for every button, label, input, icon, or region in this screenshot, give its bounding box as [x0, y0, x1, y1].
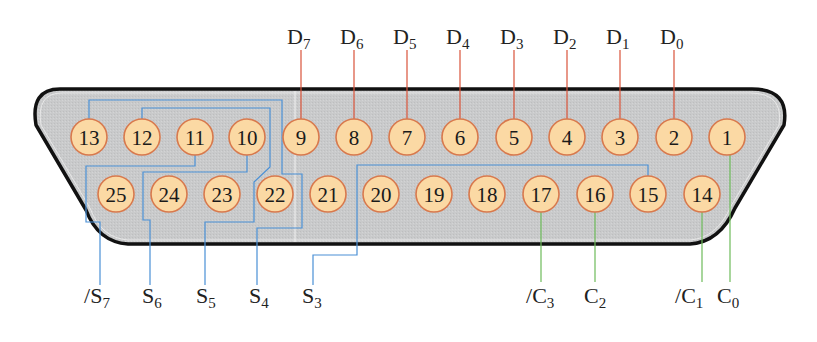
pin-11: 11	[177, 119, 213, 155]
pin-number: 2	[669, 126, 680, 150]
pin-5: 5	[496, 119, 532, 155]
pin-23: 23	[204, 176, 240, 212]
pin-number: 5	[509, 126, 520, 150]
label-c2: C2	[584, 283, 606, 311]
pin-number: 9	[296, 126, 307, 150]
pin-number: 17	[531, 183, 552, 207]
label-c3-inverted: /C3	[526, 283, 554, 311]
pin-number: 13	[79, 126, 100, 150]
pin-number: 22	[265, 183, 286, 207]
pin-number: 12	[132, 126, 153, 150]
pin-number: 24	[159, 183, 181, 207]
label-s4: S4	[249, 283, 269, 311]
pin-18: 18	[469, 176, 505, 212]
db25-pinout-diagram: 13121110987654321 2524232221201918171615…	[0, 0, 817, 342]
pin-4: 4	[549, 119, 585, 155]
pin-20: 20	[363, 176, 399, 212]
pin-14: 14	[684, 176, 720, 212]
pin-number: 23	[212, 183, 233, 207]
pin-number: 25	[106, 183, 127, 207]
pin-22: 22	[257, 176, 293, 212]
label-d4: D4	[446, 24, 470, 52]
pin-15: 15	[630, 176, 666, 212]
pin-number: 8	[349, 126, 360, 150]
label-d0: D0	[660, 24, 683, 52]
label-d6: D6	[340, 24, 364, 52]
pin-1: 1	[709, 119, 745, 155]
control-labels: /C3 C2 /C1 C0	[526, 283, 739, 311]
pin-number: 18	[477, 183, 498, 207]
pin-number: 20	[371, 183, 392, 207]
pin-number: 11	[185, 126, 205, 150]
label-d7: D7	[287, 24, 311, 52]
pin-number: 3	[615, 126, 626, 150]
pin-7: 7	[389, 119, 425, 155]
label-d2: D2	[553, 24, 576, 52]
label-d5: D5	[393, 24, 416, 52]
pin-number: 16	[585, 183, 606, 207]
pin-8: 8	[336, 119, 372, 155]
pin-number: 6	[455, 126, 466, 150]
label-s3: S3	[302, 283, 322, 311]
pin-number: 15	[638, 183, 659, 207]
status-labels: /S7 S6 S5 S4 S3	[84, 283, 322, 311]
label-d1: D1	[606, 24, 629, 52]
pin-number: 19	[424, 183, 445, 207]
data-labels: D7 D6 D5 D4 D3 D2 D1 D0	[287, 24, 683, 52]
pin-24: 24	[151, 176, 187, 212]
label-d3: D3	[500, 24, 523, 52]
pin-number: 1	[722, 126, 733, 150]
label-c0: C0	[717, 283, 739, 311]
pin-number: 7	[402, 126, 413, 150]
pin-3: 3	[602, 119, 638, 155]
pin-6: 6	[442, 119, 478, 155]
pin-number: 4	[562, 126, 573, 150]
pin-10: 10	[229, 119, 265, 155]
pin-19: 19	[416, 176, 452, 212]
label-s5: S5	[196, 283, 216, 311]
pin-13: 13	[71, 119, 107, 155]
label-s6: S6	[142, 283, 162, 311]
pin-12: 12	[124, 119, 160, 155]
pin-number: 10	[237, 126, 258, 150]
pin-2: 2	[656, 119, 692, 155]
label-s7-inverted: /S7	[84, 283, 110, 311]
pin-21: 21	[310, 176, 346, 212]
pin-number: 14	[692, 183, 714, 207]
pin-number: 21	[318, 183, 339, 207]
pin-17: 17	[523, 176, 559, 212]
label-c1-inverted: /C1	[675, 283, 703, 311]
pin-9: 9	[283, 119, 319, 155]
pin-16: 16	[577, 176, 613, 212]
pin-25: 25	[98, 176, 134, 212]
